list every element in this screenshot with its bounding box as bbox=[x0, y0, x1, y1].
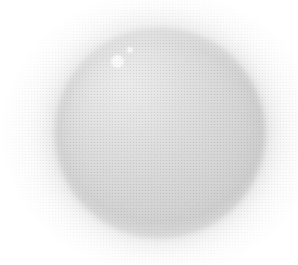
image-canvas: Light grey sphere with two small white s… bbox=[0, 0, 298, 265]
primary-specular-highlight bbox=[111, 55, 124, 68]
sphere-key-light bbox=[55, 28, 265, 238]
image-alt-text: Light grey sphere with two small white s… bbox=[0, 0, 1, 1]
